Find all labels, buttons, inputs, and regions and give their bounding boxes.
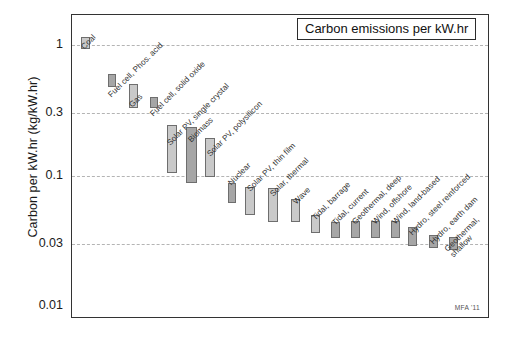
- series-label: Wave: [292, 186, 313, 207]
- gridline: [72, 244, 488, 245]
- y-axis-tick-label: 0.1: [0, 168, 63, 182]
- gridline: [72, 176, 488, 177]
- gridline: [72, 113, 488, 114]
- chart-title: Carbon emissions per kW.hr: [297, 18, 476, 40]
- y-axis-tick-label: 0.03: [0, 236, 63, 250]
- series-label: Solar PV, polysilicon: [206, 100, 264, 158]
- gridline: [72, 45, 488, 46]
- series-label: Solar PV, thin film: [246, 142, 298, 194]
- chart-figure: Carbon per kW.hr (kg/kW.hr) 10.30.10.030…: [0, 0, 505, 342]
- y-axis-tick-label: 0.01: [0, 298, 63, 312]
- y-axis-tick-label: 1: [0, 37, 63, 51]
- y-axis-tick-label: 0.3: [0, 105, 63, 119]
- watermark: MFA '11: [455, 304, 480, 311]
- plot-area: CoalFuel cell, Phos. acidGasFuel cell, s…: [71, 14, 489, 318]
